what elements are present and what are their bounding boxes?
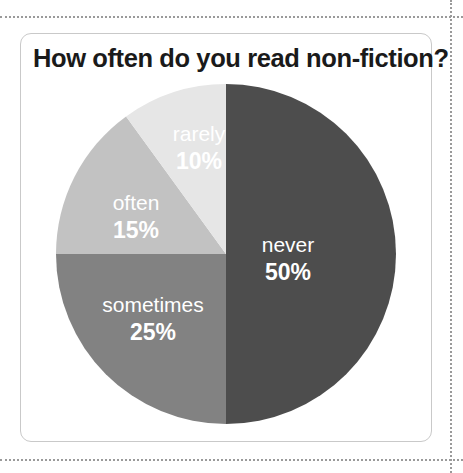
pie-slice-value-sometimes: 25%: [130, 319, 176, 345]
pie-chart: never50%sometimes25%often15%rarely10%: [56, 84, 396, 424]
pie-slice-label-never: never: [262, 233, 315, 256]
pie-slice-label-often: often: [113, 191, 160, 214]
pie-slice-value-often: 15%: [113, 217, 159, 243]
pie-chart-svg: never50%sometimes25%often15%rarely10%: [56, 84, 396, 424]
pie-slice-value-never: 50%: [265, 259, 311, 285]
pie-slice-label-sometimes: sometimes: [102, 293, 204, 316]
pie-slice-value-rarely: 10%: [176, 148, 222, 174]
dotted-rule-bottom: [0, 459, 463, 461]
pie-slice-group: [56, 84, 396, 424]
dotted-rule-right: [450, 0, 452, 473]
dotted-rule-top: [0, 16, 463, 18]
page-frame: How often do you read non-fiction? never…: [0, 0, 463, 473]
chart-card: How often do you read non-fiction? never…: [20, 33, 432, 442]
pie-slice-label-rarely: rarely: [173, 122, 226, 145]
chart-title: How often do you read non-fiction?: [33, 44, 423, 73]
